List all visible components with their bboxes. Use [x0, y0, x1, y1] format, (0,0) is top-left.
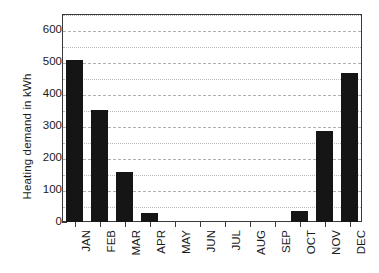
y-tick-label: 600 — [16, 24, 62, 36]
gridline — [63, 175, 361, 176]
gridline — [63, 143, 361, 144]
x-tick-mark — [250, 222, 251, 227]
gridline — [63, 47, 361, 48]
gridline — [63, 31, 361, 32]
gridline — [63, 111, 361, 112]
x-tick-mark — [150, 222, 151, 227]
x-tick-label-sep: SEP — [280, 230, 292, 253]
x-tick-mark — [100, 222, 101, 227]
x-tick-label-jul: JUL — [230, 230, 242, 250]
x-tick-label-nov: NOV — [330, 230, 342, 255]
gridline — [63, 63, 361, 64]
x-tick-mark — [75, 222, 76, 227]
x-tick-mark — [225, 222, 226, 227]
gridline — [63, 207, 361, 208]
y-tick-label: 100 — [16, 184, 62, 196]
x-tick-label-feb: FEB — [105, 230, 117, 252]
x-tick-label-may: MAY — [180, 230, 192, 254]
y-tick-label: 300 — [16, 120, 62, 132]
x-tick-mark — [275, 222, 276, 227]
x-axis-ticks: JANFEBMARAPRMAYJUNJULAUGSEPOCTNOVDEC — [62, 222, 362, 273]
plot-area — [62, 14, 362, 222]
gridline — [63, 191, 361, 192]
x-tick-label-apr: APR — [155, 230, 167, 254]
x-tick-mark — [175, 222, 176, 227]
x-tick-label-mar: MAR — [130, 230, 142, 256]
y-axis-ticks: 0100200300400500600 — [8, 0, 62, 273]
gridline — [63, 79, 361, 80]
bar-chart: Heating demand in kWh 010020030040050060… — [0, 0, 379, 273]
x-tick-label-jun: JUN — [205, 230, 217, 252]
y-tick-label: 500 — [16, 56, 62, 68]
x-tick-mark — [200, 222, 201, 227]
gridline — [63, 159, 361, 160]
y-tick-label: 400 — [16, 88, 62, 100]
x-tick-label-jan: JAN — [80, 230, 92, 252]
gridline — [63, 127, 361, 128]
x-tick-label-aug: AUG — [255, 230, 267, 255]
x-tick-mark — [350, 222, 351, 227]
x-tick-label-dec: DEC — [355, 230, 367, 254]
x-tick-mark — [125, 222, 126, 227]
y-tick-label: 0 — [16, 216, 62, 228]
gridline — [63, 95, 361, 96]
y-tick-label: 200 — [16, 152, 62, 164]
x-tick-mark — [300, 222, 301, 227]
x-tick-mark — [325, 222, 326, 227]
x-tick-label-oct: OCT — [305, 230, 317, 254]
gridline — [63, 15, 361, 16]
